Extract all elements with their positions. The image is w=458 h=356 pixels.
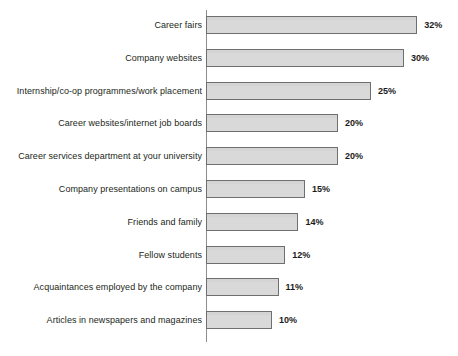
bar-value-label: 10%: [279, 311, 297, 329]
bar: [206, 147, 338, 165]
bar-value-label: 15%: [312, 180, 330, 198]
bar-highlight: [207, 83, 370, 86]
bar-row: Career fairs32%: [0, 16, 458, 35]
category-label: Acquaintances employed by the company: [0, 278, 202, 297]
bar: [206, 278, 279, 296]
category-label: Career fairs: [0, 16, 202, 35]
category-label: Internship/co-op programmes/work placeme…: [0, 82, 202, 101]
bar: [206, 82, 371, 100]
bar-row: Articles in newspapers and magazines10%: [0, 311, 458, 330]
bar-row: Company presentations on campus15%: [0, 180, 458, 199]
bar: [206, 311, 272, 329]
bar-highlight: [207, 181, 304, 184]
bar-row: Company websites30%: [0, 49, 458, 68]
bar: [206, 16, 417, 34]
category-label: Articles in newspapers and magazines: [0, 311, 202, 330]
bar-highlight: [207, 247, 284, 250]
bar-row: Internship/co-op programmes/work placeme…: [0, 82, 458, 101]
bar-wrapper: [206, 213, 298, 232]
bar-row: Friends and family14%: [0, 213, 458, 232]
bar-highlight: [207, 279, 278, 282]
bar: [206, 213, 298, 231]
bar-row: Fellow students12%: [0, 246, 458, 265]
bar-highlight: [207, 115, 337, 118]
bar-row: Career services department at your unive…: [0, 147, 458, 166]
bar-value-label: 32%: [424, 16, 442, 34]
bar-value-label: 20%: [345, 114, 363, 132]
bar-highlight: [207, 214, 297, 217]
category-label: Career websites/internet job boards: [0, 114, 202, 133]
category-label: Company presentations on campus: [0, 180, 202, 199]
bar-row: Acquaintances employed by the company11%: [0, 278, 458, 297]
bar-value-label: 11%: [286, 278, 304, 296]
bar-row: Career websites/internet job boards20%: [0, 114, 458, 133]
bar: [206, 180, 305, 198]
category-label: Fellow students: [0, 246, 202, 265]
bar-wrapper: [206, 49, 404, 68]
category-label: Career services department at your unive…: [0, 147, 202, 166]
bar: [206, 114, 338, 132]
bar-wrapper: [206, 114, 338, 133]
category-label: Friends and family: [0, 213, 202, 232]
bar-value-label: 30%: [411, 49, 429, 67]
bar-value-label: 14%: [305, 213, 323, 231]
bar-value-label: 12%: [292, 246, 310, 264]
bar: [206, 49, 404, 67]
bar-highlight: [207, 17, 416, 20]
category-label: Company websites: [0, 49, 202, 68]
bar-wrapper: [206, 246, 285, 265]
bar-wrapper: [206, 147, 338, 166]
bar: [206, 246, 285, 264]
bar-wrapper: [206, 16, 417, 35]
bar-highlight: [207, 50, 403, 53]
bar-highlight: [207, 312, 271, 315]
bar-highlight: [207, 148, 337, 151]
horizontal-bar-chart: Career fairs32%Company websites30%Intern…: [0, 0, 458, 356]
bar-wrapper: [206, 180, 305, 199]
bar-wrapper: [206, 278, 279, 297]
bar-wrapper: [206, 311, 272, 330]
bar-value-label: 25%: [378, 82, 396, 100]
bar-wrapper: [206, 82, 371, 101]
bar-value-label: 20%: [345, 147, 363, 165]
